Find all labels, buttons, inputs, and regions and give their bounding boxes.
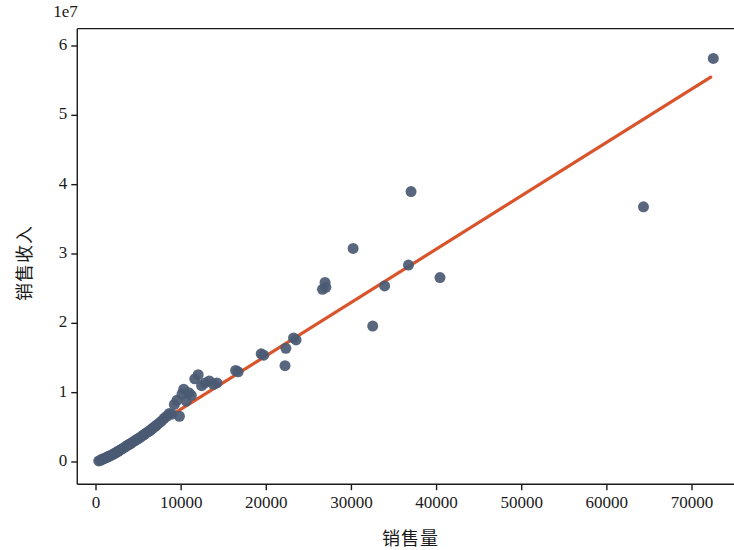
- y-axis-title: 销售收入: [10, 225, 36, 301]
- y-tick-label: 1: [59, 382, 68, 402]
- x-tick-label: 70000: [642, 493, 734, 513]
- y-tick-label: 3: [59, 243, 68, 263]
- y-tick-label: 5: [59, 104, 68, 124]
- y-tick-label: 6: [59, 35, 68, 55]
- y-tick-label: 0: [59, 451, 68, 471]
- x-axis-title: 销售量: [370, 524, 450, 550]
- y-axis-offset-label: 1e7: [53, 2, 78, 22]
- y-tick-label: 4: [59, 174, 68, 194]
- y-tick-label: 2: [59, 312, 68, 332]
- scatter-points: [93, 53, 719, 466]
